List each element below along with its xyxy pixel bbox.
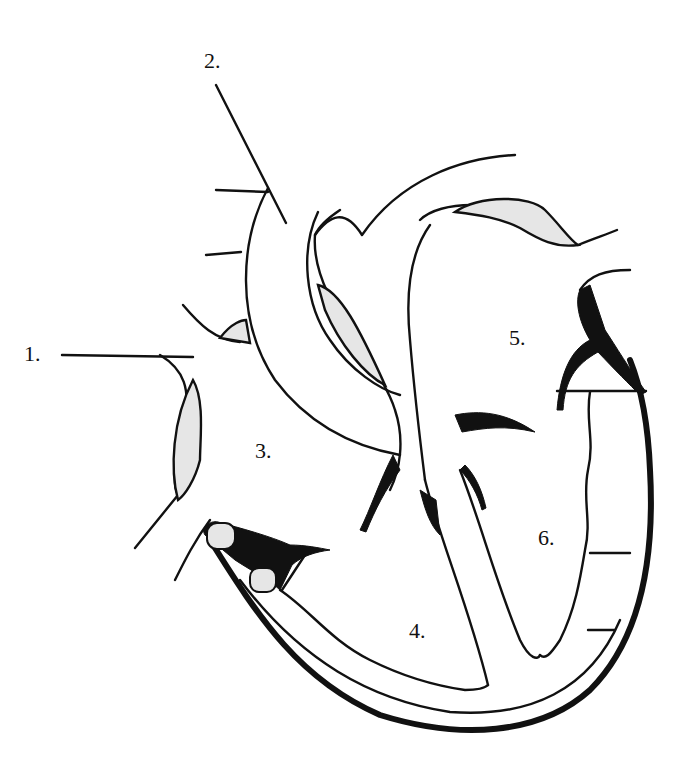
- ventricle-inner-wall-right: [240, 580, 620, 713]
- label-6: 6.: [538, 527, 555, 549]
- leader-line-1: [62, 355, 193, 357]
- label-1: 1.: [24, 343, 41, 365]
- label-2: 2.: [204, 50, 221, 72]
- label-4: 4.: [409, 620, 426, 642]
- heart-diagram: [0, 0, 694, 766]
- leader-line-2: [216, 85, 286, 223]
- aortic-arch: [315, 155, 515, 235]
- superior-vena-cava: [246, 188, 400, 455]
- label-3: 3.: [255, 440, 272, 462]
- label-5: 5.: [509, 327, 526, 349]
- pulmonary-trunk: [408, 225, 430, 480]
